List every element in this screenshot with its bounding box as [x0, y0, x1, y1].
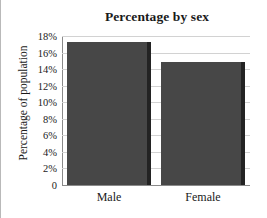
y-tick-label: 8%: [43, 113, 57, 124]
page-edge-rule: [0, 0, 1, 218]
y-tick-label: 16%: [38, 47, 57, 58]
y-axis-line: [62, 36, 63, 186]
bar-male: [67, 42, 151, 185]
bar-female: [161, 62, 245, 185]
y-tick-label: 4%: [43, 146, 57, 157]
y-tick-label: 18%: [38, 31, 57, 42]
chart-image: Percentage by sex Percentage of populati…: [0, 0, 267, 218]
y-tick-label: 14%: [38, 64, 57, 75]
x-tick-label-female: Female: [161, 190, 245, 205]
y-tick-label: 6%: [43, 130, 57, 141]
y-tick-label: 10%: [38, 97, 57, 108]
y-tick-label: 0: [52, 180, 57, 191]
axis-baseline: [62, 185, 250, 186]
y-tick-label: 2%: [43, 163, 57, 174]
x-tick-label-male: Male: [67, 190, 151, 205]
chart-title: Percentage by sex: [62, 9, 252, 25]
plot-inner: 02%4%6%8%10%12%14%16%18%: [62, 36, 250, 185]
plot-area: 02%4%6%8%10%12%14%16%18%: [62, 36, 250, 185]
y-axis-title: Percentage of population: [17, 18, 29, 188]
gridline: [62, 36, 250, 37]
y-tick-label: 12%: [38, 80, 57, 91]
